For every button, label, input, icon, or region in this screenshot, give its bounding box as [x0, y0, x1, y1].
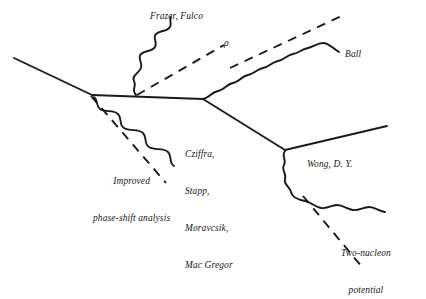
label-cziffra-line-3: Moravcsik, — [185, 222, 233, 234]
label-improved-line-2: phase-shift analysis — [93, 212, 170, 224]
label-improved-phase-shift-analysis: Improved phase-shift analysis — [93, 150, 170, 249]
vertex1-wavy-up-right-edge — [133, 17, 171, 95]
vertex1-dashed-up-right-edge — [137, 45, 224, 95]
incoming-solid-left-edge — [14, 58, 92, 95]
vertex3-solid-up-right-edge — [285, 126, 387, 150]
label-cziffra-group: Cziffra, Stapp, Moravcsik, Mac Gregor — [185, 123, 233, 297]
label-two-nucleon-line-1: Two-nucleon — [341, 247, 391, 259]
label-ball: Ball — [345, 48, 361, 60]
label-cziffra-line-1: Cziffra, — [185, 148, 233, 160]
central-solid-horizontal-edge — [92, 95, 203, 99]
label-wong-d-y: Wong, D. Y. — [307, 158, 353, 170]
label-cziffra-line-4: Mac Gregor — [185, 259, 233, 271]
vertex2-wavy-up-right-edge — [203, 43, 339, 99]
label-cziffra-line-2: Stapp, — [185, 185, 233, 197]
label-improved-line-1: Improved — [93, 175, 170, 187]
label-rho: ρ — [224, 37, 229, 49]
label-two-nucleon-potential: Two-nucleon potential — [341, 222, 391, 299]
label-frazer-fulco: Frazer, Fulco — [150, 10, 203, 22]
vertex2-dashed-up-right-edge — [230, 14, 346, 68]
label-two-nucleon-line-2: potential — [341, 284, 391, 296]
